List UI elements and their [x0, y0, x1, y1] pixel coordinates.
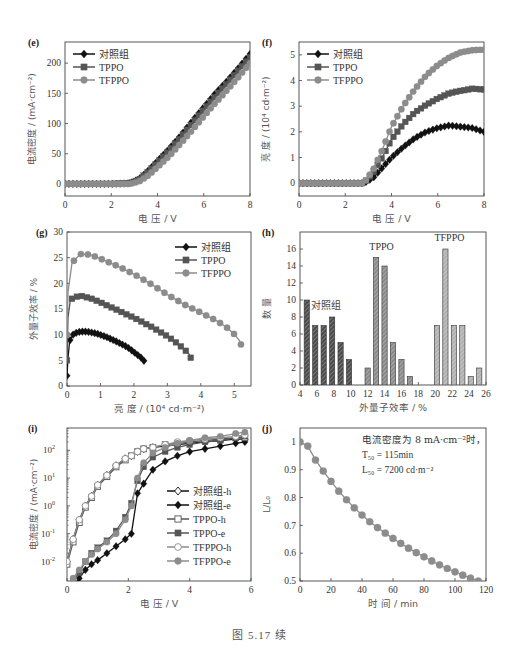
diamond-marker-icon [64, 372, 70, 380]
y-tick-label: 50 [52, 149, 62, 159]
legend-item: 对照组-h [167, 485, 231, 497]
y-tick-label: 150 [47, 89, 62, 99]
histogram-bar [399, 360, 404, 386]
plot-area [62, 50, 253, 187]
y-tick-label: 0 [291, 380, 296, 390]
x-tick-label: 6 [249, 585, 254, 595]
legend-label: TPPO [333, 62, 357, 73]
circle-marker-icon [394, 113, 400, 119]
legend-item: TFPPO [175, 268, 231, 279]
legend-label: TFPPO-h [193, 542, 231, 553]
circle-marker-icon [210, 316, 216, 322]
y-tick-label: 30 [54, 227, 64, 237]
legend-label: TPPO-e [193, 528, 226, 539]
x-tick-label: 12 [363, 389, 373, 399]
legend-label: TPPO-h [193, 514, 226, 525]
circle-marker-icon [94, 546, 100, 552]
circle-marker-icon [168, 294, 174, 300]
y-tick-label: 2 [290, 127, 295, 137]
x-tick-label: 4 [389, 200, 394, 210]
circle-marker-icon [78, 251, 84, 257]
legend: 对照组TPPOTFPPO [307, 48, 363, 86]
square-marker-icon [391, 134, 397, 140]
y-tick-label: 14 [287, 261, 297, 271]
x-tick-label: 80 [419, 585, 429, 595]
legend-item: TPPO-e [167, 528, 226, 539]
circle-marker-icon [382, 530, 389, 537]
circle-marker-icon [231, 331, 237, 337]
legend-item: 对照组 [307, 48, 363, 60]
y-tick-label: 0.8 [284, 493, 296, 503]
x-tick-label: 20 [431, 389, 441, 399]
x-tick-label: 26 [481, 389, 491, 399]
legend-label: TPPO [201, 255, 225, 266]
y-tick-label: 0 [290, 178, 295, 188]
circle-marker-icon [375, 157, 381, 163]
x-axis-label: 时 间 / min [368, 598, 418, 609]
legend-item: TFPPO-e [167, 556, 231, 567]
histogram-bar [321, 326, 326, 386]
diamond-marker-icon [162, 458, 168, 466]
chart-panel-j: (j)0204060801001200.50.60.70.80.91时 间 / … [262, 423, 493, 609]
plot-area [64, 429, 248, 593]
series-line [300, 442, 478, 581]
circle-marker-icon [363, 177, 369, 183]
annotation-current-density: 电流密度为 8 mA·cm⁻²时， [362, 434, 486, 445]
x-tick-label: 0 [65, 585, 70, 595]
histogram-bar [313, 326, 318, 386]
histogram-bar [338, 343, 343, 386]
circle-marker-icon [382, 138, 388, 144]
annotation-l50: L₅₀ = 7200 cd·m⁻² [362, 465, 433, 475]
y-tick-label: 0 [58, 381, 63, 391]
circle-marker-icon [88, 551, 94, 557]
square-marker-icon [175, 516, 181, 522]
x-tick-label: 2 [126, 585, 131, 595]
circle-marker-icon [106, 259, 112, 265]
histogram-bar [304, 300, 309, 385]
y-axis-label: 电流密度 / (mA·cm⁻²) [26, 73, 37, 165]
x-axis-label: 外量子效率 / % [359, 402, 427, 413]
square-marker-icon [247, 54, 253, 60]
circle-marker-icon [183, 270, 190, 277]
x-tick-label: 60 [388, 585, 398, 595]
chart-panel-h: (h)4681012141618202224260246810121416外量子… [261, 227, 491, 413]
legend-label: TFPPO [333, 75, 363, 86]
plot-area [296, 438, 481, 584]
circle-marker-icon [133, 272, 139, 278]
x-tick-label: 1 [98, 390, 103, 400]
y-axis-label: 外量子效率 / % [28, 277, 39, 340]
x-tick-label: 0 [65, 390, 70, 400]
histogram-bar [346, 360, 351, 386]
legend-item: 对照组 [175, 241, 231, 253]
plot-frame [65, 42, 250, 196]
y-tick-label: 15 [54, 304, 64, 314]
circle-marker-icon [122, 517, 128, 523]
circle-marker-icon [99, 256, 105, 262]
x-tick-label: 3 [165, 390, 170, 400]
histogram-bar [477, 368, 482, 385]
x-tick-label: 2 [343, 200, 348, 210]
y-tick-label: 10 [54, 330, 64, 340]
circle-marker-icon [126, 269, 132, 275]
legend-item: TFPPO [73, 75, 129, 86]
diamond-marker-icon [70, 583, 76, 591]
legend-item: TFPPO-h [167, 542, 231, 553]
chart-panel-g: (g)012345051015202530亮 度 / (10⁴ cd·m⁻²)外… [28, 227, 251, 414]
legend-item: TPPO [73, 62, 123, 73]
circle-marker-icon [104, 472, 110, 478]
circle-marker-icon [85, 251, 91, 257]
x-axis-label: 亮 度 / (10⁴ cd·m⁻²) [114, 403, 205, 414]
circle-marker-icon [134, 475, 140, 481]
y-tick-label: 200 [47, 58, 62, 68]
circle-marker-icon [374, 524, 381, 531]
circle-marker-icon [378, 148, 384, 154]
circle-marker-icon [88, 493, 94, 499]
x-tick-label: 20 [326, 585, 336, 595]
circle-marker-icon [217, 320, 223, 326]
chart-panel-f: (f)02468012345电 压 / V亮 度 / (10⁴ cd·m⁻²)对… [260, 37, 487, 224]
x-tick-label: 24 [464, 389, 474, 399]
circle-marker-icon [147, 281, 153, 287]
histogram-bar [365, 368, 370, 385]
x-tick-label: 14 [380, 389, 390, 399]
circle-marker-icon [367, 172, 373, 178]
